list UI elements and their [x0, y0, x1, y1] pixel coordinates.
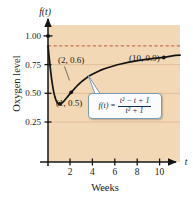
point-marker-10-0.9 [162, 56, 166, 60]
x-tick-label-2: 2 [68, 167, 73, 177]
y-tick-label-0.75: 0.75 [25, 60, 41, 70]
y-tick-label-0.50: 0.50 [25, 88, 41, 98]
y-tick-label-0.25: 0.25 [25, 117, 41, 127]
x-axis-variable-label: t [185, 157, 188, 167]
formula-fraction: t² − t + 1 t² + 1 [118, 97, 152, 115]
annotation-label-2-0.6: (2, 0.6) [58, 55, 84, 65]
formula-content: f(t) = t² − t + 1 t² + 1 [99, 97, 152, 115]
x-tick-label-8: 8 [135, 167, 140, 177]
point-marker-2-0.6 [69, 90, 73, 94]
y-tick-label-1.00: 1.00 [25, 31, 41, 41]
x-tick-label-6: 6 [112, 167, 117, 177]
formula-left-hand-side: f(t) = [99, 102, 116, 110]
formula-denominator: t² + 1 [124, 107, 146, 116]
x-axis-title: Weeks [45, 182, 165, 193]
y-axis-title: Oxygen level [11, 44, 22, 124]
x-tick-label-4: 4 [90, 167, 95, 177]
oxygen-level-chart-figure: 1.00 0.75 0.50 0.25 2 4 6 8 10 f(t) t (2… [0, 0, 193, 200]
point-marker-origin-1.0 [46, 34, 50, 38]
y-axis-variable-label: f(t) [39, 7, 51, 18]
annotation-label-10-0.9: (10, 0.9) [129, 53, 160, 63]
x-tick-label-10: 10 [155, 167, 165, 177]
formula-callout-box: f(t) = t² − t + 1 t² + 1 [88, 93, 162, 119]
annotation-label-1-0.5: (1, 0.5) [56, 98, 82, 108]
